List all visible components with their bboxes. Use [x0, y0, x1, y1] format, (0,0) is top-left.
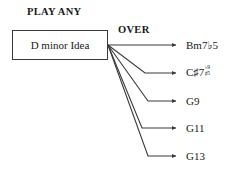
chord-label-g11: G11 — [186, 123, 205, 134]
chord-alteration-lower: ♯5 — [205, 71, 210, 77]
chord-label-bm7b5: Bm7♭5 — [186, 40, 218, 51]
chord-label-g9: G9 — [186, 96, 199, 107]
chord-root: G11 — [186, 122, 205, 134]
chord-root: C♯7 — [186, 66, 204, 78]
chord-root: G9 — [186, 95, 199, 107]
chord-root: G13 — [186, 150, 205, 162]
over-heading: OVER — [118, 24, 150, 35]
chord-label-csharp7b9sharp5: C♯7♭9♯5 — [186, 67, 210, 78]
d-minor-idea-box: D minor Idea — [12, 30, 108, 60]
chord-root: Bm7 — [186, 39, 207, 51]
chord-alteration-stack: ♭9♯5 — [205, 65, 210, 76]
chord-label-g13: G13 — [186, 151, 205, 162]
play-any-heading: PLAY ANY — [27, 6, 81, 17]
chord-extension: 5 — [213, 39, 219, 51]
d-minor-idea-label: D minor Idea — [13, 31, 107, 59]
chord-substitution-diagram: PLAY ANY OVER D minor Idea Bm7♭5 C♯7♭9♯5… — [0, 0, 236, 170]
arrow-to-g11 — [108, 45, 176, 128]
